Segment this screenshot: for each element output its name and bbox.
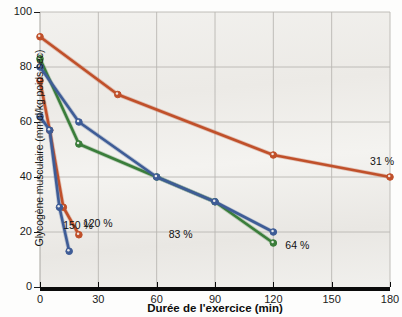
data-point-highlight: [388, 175, 391, 178]
data-point-highlight: [67, 249, 70, 252]
data-point-highlight: [57, 205, 60, 208]
data-point-highlight: [48, 128, 51, 131]
data-point-highlight: [116, 92, 119, 95]
data-point-highlight: [271, 230, 274, 233]
series-line-underlay: [40, 67, 273, 232]
data-point-highlight: [155, 175, 158, 178]
series-line: [40, 67, 273, 232]
series-label: 150 %: [63, 219, 93, 231]
data-point-highlight: [77, 142, 80, 145]
x-axis-title: Durée de l'exercice (min): [40, 302, 390, 314]
series-label: 83 %: [169, 228, 193, 240]
data-point-highlight: [213, 200, 216, 203]
data-series-layer: [0, 0, 402, 317]
data-point-highlight: [77, 233, 80, 236]
data-point-highlight: [271, 153, 274, 156]
chart-figure: 100806040200 0306090120150180 31 %64 %83…: [0, 0, 402, 317]
series-label: 31 %: [370, 155, 394, 167]
series-64-: [37, 55, 277, 246]
y-axis-title: Glycogène musculaire (mmol/kg poids sec): [33, 23, 45, 273]
series-83-: [37, 64, 277, 236]
data-point-highlight: [271, 241, 274, 244]
series-line: [40, 37, 390, 177]
data-point-highlight: [77, 120, 80, 123]
series-line-underlay: [40, 37, 390, 177]
series-31-: [37, 33, 394, 180]
series-label: 64 %: [285, 239, 309, 251]
